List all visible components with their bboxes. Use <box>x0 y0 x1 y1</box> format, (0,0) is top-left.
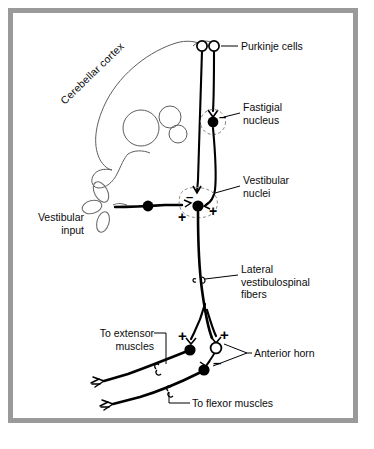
sign-vestibular-nuclei-plus-left: + <box>178 210 186 224</box>
leader-fastigial-nucleus <box>224 113 240 117</box>
label-lateral-vestibulospinal-fibers: Lateral vestibulospinal fibers <box>241 263 310 301</box>
sign-fastigial-minus: – <box>219 110 226 123</box>
extensor-motor-neuron-soma <box>184 344 195 355</box>
flexor-motor-axon <box>113 373 199 404</box>
extensor-motor-axon <box>104 352 185 381</box>
figure-root: Cerebellar cortex Purkinje cells Fastigi… <box>0 0 374 449</box>
leader-lateral-vsp-fibers <box>205 275 238 279</box>
vestibular-nuclei-soma <box>192 200 203 211</box>
flexor-motor-endplate <box>100 400 113 410</box>
sign-anterior-horn-plus-left: + <box>178 328 187 343</box>
leader-vestibular-nuclei <box>215 186 240 193</box>
canal-stem <box>113 204 127 206</box>
tract-branch-to-extensor <box>191 304 205 339</box>
label-to-extensor-muscles: To extensor muscles <box>76 327 154 352</box>
sign-vestibular-nuclei-minus: – <box>186 190 193 203</box>
fastigial-efferent-axon <box>206 128 216 205</box>
sign-anterior-horn-plus-right: + <box>220 327 229 342</box>
leader-lines <box>154 46 252 403</box>
fastigial-nucleus-soma <box>208 117 219 128</box>
extensor-axon-cut-marker <box>155 364 161 375</box>
cerebellar-interior-circles <box>123 106 187 146</box>
canal-posterior <box>94 210 111 233</box>
cerebellum-circle-large <box>123 110 159 146</box>
tract-cut-marker <box>193 277 205 283</box>
sign-vestibular-nuclei-plus-right: + <box>209 204 217 218</box>
purkinje-axon-left <box>197 51 202 192</box>
label-vestibular-nuclei: Vestibular nuclei <box>243 174 289 199</box>
label-to-flexor-muscles: To flexor muscles <box>192 397 273 410</box>
label-vestibular-input: Vestibular input <box>18 211 84 236</box>
purkinje-cell-left-soma <box>197 41 207 51</box>
flexor-motor-neuron-soma <box>198 364 209 375</box>
canal-superior <box>90 179 112 205</box>
extensor-motor-endplate <box>91 377 104 387</box>
cerebellum-circle-small <box>169 125 187 143</box>
label-fastigial-nucleus: Fastigial nucleus <box>243 101 282 126</box>
inhibitory-interneuron-soma <box>211 343 222 354</box>
vestibular-ganglion-soma <box>143 201 154 212</box>
purkinje-cell-right-soma <box>209 41 219 51</box>
label-anterior-horn: Anterior horn <box>254 347 315 360</box>
purkinje-axon-right <box>213 51 214 111</box>
leader-anterior-horn-upper <box>224 344 247 353</box>
sign-anterior-horn-minus: – <box>213 355 221 370</box>
label-purkinje-cells: Purkinje cells <box>241 40 303 53</box>
